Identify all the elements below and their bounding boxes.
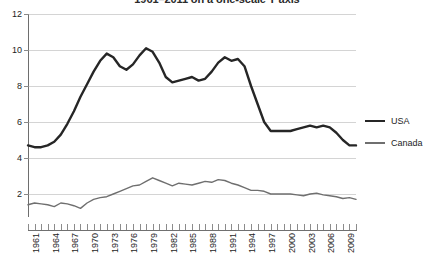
x-axis-tick <box>87 224 88 230</box>
y-axis-tick <box>24 86 29 87</box>
x-axis-line <box>28 230 357 231</box>
grid-line <box>28 50 356 51</box>
x-axis-tick <box>251 224 252 230</box>
x-axis-tick <box>290 224 291 230</box>
x-axis-tick <box>205 224 206 230</box>
y-axis-tick-label: 10 <box>0 46 22 55</box>
legend-swatch-icon <box>365 142 385 144</box>
x-axis-tick <box>185 224 186 230</box>
x-axis-tick <box>94 224 95 230</box>
y-axis-tick-label: 8 <box>0 82 22 91</box>
x-axis-tick <box>284 224 285 230</box>
x-axis-tick-label: 1976 <box>130 233 139 253</box>
x-axis-tick-label: 1979 <box>150 233 159 253</box>
y-axis-tick <box>24 122 29 123</box>
x-axis-tick <box>192 224 193 230</box>
y-axis-tick-label: 6 <box>0 118 22 127</box>
x-axis-tick <box>28 224 29 230</box>
legend-item-usa[interactable]: USA <box>365 110 423 132</box>
grid-line <box>28 14 356 15</box>
x-axis-tick <box>356 224 357 230</box>
chart-root: 1961–2011 on a one-scale Y axis 24681012… <box>0 0 434 256</box>
legend-swatch-icon <box>365 120 385 122</box>
x-axis-tick <box>231 224 232 230</box>
x-axis-tick <box>166 224 167 230</box>
y-axis-tick <box>24 14 29 15</box>
x-axis-tick <box>35 224 36 230</box>
y-axis-tick-label: 4 <box>0 154 22 163</box>
x-axis-tick <box>343 224 344 230</box>
x-axis-tick-label: 2006 <box>327 233 336 253</box>
x-axis-tick <box>61 224 62 230</box>
y-axis-line <box>28 14 29 217</box>
x-axis-tick <box>153 224 154 230</box>
x-axis-tick-label: 1997 <box>268 233 277 253</box>
legend-item-canada[interactable]: Canada <box>365 132 423 154</box>
x-axis-tick <box>199 224 200 230</box>
x-axis-tick <box>133 224 134 230</box>
x-axis-tick-label: 1967 <box>71 233 80 253</box>
x-axis-tick <box>238 224 239 230</box>
x-axis-tick <box>67 224 68 230</box>
x-axis-tick-label: 2003 <box>308 233 317 253</box>
legend-label: USA <box>391 116 410 126</box>
y-axis-tick <box>24 50 29 51</box>
x-axis-tick <box>140 224 141 230</box>
legend-label: Canada <box>391 138 423 148</box>
x-axis-tick-label: 1973 <box>111 233 120 253</box>
chart-legend: USACanada <box>365 110 423 154</box>
x-axis-tick <box>212 224 213 230</box>
x-axis-tick <box>323 224 324 230</box>
x-axis-tick-label: 1994 <box>248 233 257 253</box>
x-axis-tick <box>310 224 311 230</box>
x-axis-tick-label: 2009 <box>347 233 356 253</box>
x-axis-tick-label: 1970 <box>91 233 100 253</box>
x-axis-tick-label: 1964 <box>52 233 61 253</box>
x-axis-tick <box>271 224 272 230</box>
x-axis-tick <box>264 224 265 230</box>
x-axis-tick <box>258 224 259 230</box>
x-axis-tick <box>159 224 160 230</box>
x-axis-tick <box>304 224 305 230</box>
grid-line <box>28 86 356 87</box>
x-axis-tick <box>146 224 147 230</box>
x-axis-tick-label: 1991 <box>229 233 238 253</box>
x-axis-tick <box>297 224 298 230</box>
plot-area <box>28 14 356 216</box>
x-axis-tick <box>100 224 101 230</box>
x-axis-tick <box>225 224 226 230</box>
x-axis-tick <box>218 224 219 230</box>
x-axis-tick <box>179 224 180 230</box>
x-axis-tick-label: 1988 <box>209 233 218 253</box>
x-axis-tick <box>336 224 337 230</box>
x-axis-tick <box>277 224 278 230</box>
x-axis-tick <box>172 224 173 230</box>
x-axis-tick <box>349 224 350 230</box>
x-axis-tick <box>41 224 42 230</box>
x-axis-tick <box>244 224 245 230</box>
x-axis-tick <box>107 224 108 230</box>
x-axis-tick-label: 1982 <box>170 233 179 253</box>
y-axis-tick <box>24 194 29 195</box>
x-axis-tick <box>54 224 55 230</box>
x-axis-tick-label: 1985 <box>189 233 198 253</box>
chart-title: 1961–2011 on a one-scale Y axis <box>0 0 434 5</box>
x-axis-tick <box>330 224 331 230</box>
x-axis-tick-label: 1961 <box>32 233 41 253</box>
x-axis-tick <box>48 224 49 230</box>
y-axis-tick-label: 12 <box>0 10 22 19</box>
x-axis-tick-label: 2000 <box>288 233 297 253</box>
x-axis-tick <box>80 224 81 230</box>
x-axis-tick <box>74 224 75 230</box>
grid-line <box>28 194 356 195</box>
grid-line <box>28 158 356 159</box>
x-axis-tick <box>317 224 318 230</box>
y-axis-tick <box>24 158 29 159</box>
x-axis-tick <box>126 224 127 230</box>
x-axis-tick <box>120 224 121 230</box>
x-axis-tick <box>113 224 114 230</box>
y-axis-tick-label: 2 <box>0 190 22 199</box>
grid-line <box>28 122 356 123</box>
